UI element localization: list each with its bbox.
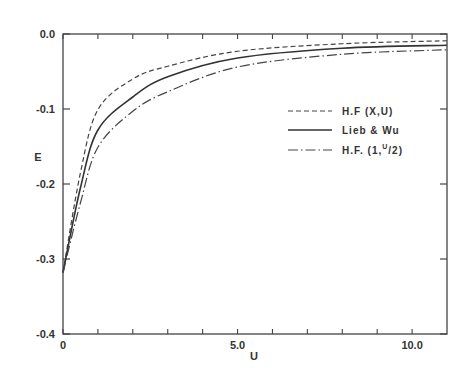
series-line-solid: [63, 45, 447, 272]
y-tick-label: -0.1: [36, 103, 55, 115]
y-tick-label: 0.0: [40, 28, 55, 40]
y-tick-label: -0.2: [36, 178, 55, 190]
chart: 0.0-0.1-0.2-0.3-0.4 05.010.0 E U H.F (X,…: [0, 0, 473, 379]
x-axis-ticks: 05.010.0: [60, 34, 423, 351]
plot-frame: [63, 34, 447, 334]
series-line-dashed: [63, 41, 447, 273]
y-axis-label: E: [34, 151, 41, 163]
y-tick-label: -0.3: [36, 253, 55, 265]
y-tick-label: -0.4: [36, 328, 56, 340]
legend: H.F (X,U) Lieb & Wu H.F. (1,U/2): [288, 106, 403, 156]
y-axis-ticks: 0.0-0.1-0.2-0.3-0.4: [36, 28, 447, 340]
legend-label-hf-xu: H.F (X,U): [342, 106, 393, 117]
series-line-dash-dot: [63, 50, 447, 273]
x-tick-label: 0: [60, 339, 66, 351]
legend-label-lieb-wu: Lieb & Wu: [342, 125, 400, 136]
x-tick-label: 5.0: [230, 339, 245, 351]
legend-label-hf-1u2: H.F. (1,U/2): [342, 143, 403, 156]
x-tick-label: 10.0: [401, 339, 422, 351]
series-layer: [63, 41, 447, 273]
x-axis-label: U: [250, 350, 258, 362]
